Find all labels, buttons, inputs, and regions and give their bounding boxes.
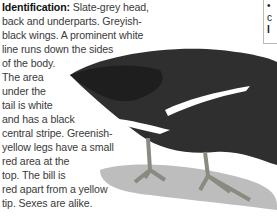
identification-line: red area at the bbox=[2, 154, 69, 169]
identification-line: yellow legs have a small bbox=[2, 140, 114, 155]
identification-line: tip. Sexes are alike. bbox=[2, 196, 92, 211]
info-box-cropped: • c I bbox=[263, 0, 277, 44]
identification-line: top. The bill is bbox=[2, 168, 66, 183]
identification-line: red apart from a yellow bbox=[2, 182, 107, 197]
identification-line: and has a black bbox=[2, 112, 75, 127]
identification-line: Identification: Slate-grey head, bbox=[2, 0, 149, 15]
text: Slate-grey head, bbox=[70, 1, 149, 13]
identification-heading: Identification: bbox=[2, 1, 70, 13]
identification-line: back and underparts. Greyish- bbox=[2, 14, 142, 29]
identification-line: central stripe. Greenish- bbox=[2, 126, 113, 141]
identification-line: tail is white bbox=[2, 98, 53, 113]
identification-line: of the body. bbox=[2, 56, 55, 71]
identification-line: black wings. A prominent white bbox=[2, 28, 143, 43]
identification-line: line runs down the sides bbox=[2, 42, 113, 57]
identification-line: The area bbox=[2, 70, 44, 85]
identification-line: under the bbox=[2, 84, 46, 99]
info-box-line: I bbox=[267, 23, 270, 36]
field-guide-page: • c I Identification: Slate-grey head, b… bbox=[0, 0, 277, 217]
